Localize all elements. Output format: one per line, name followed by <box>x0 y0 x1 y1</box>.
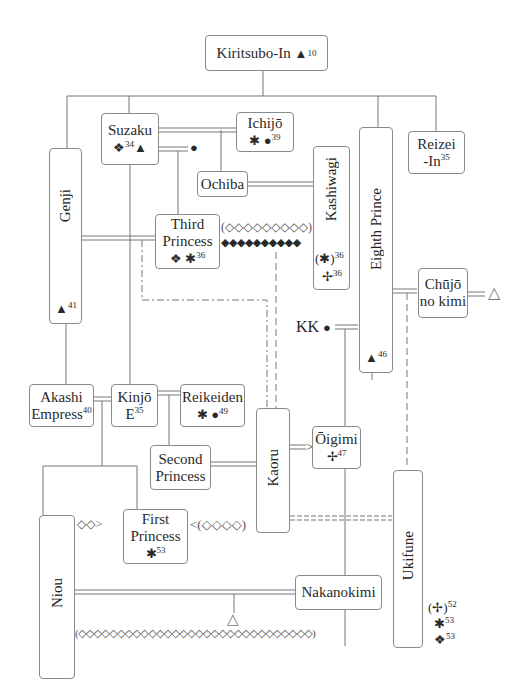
sup: 40 <box>83 405 92 415</box>
name: Ōigimi <box>315 431 358 448</box>
node-akashi-empress: Akashi Empress40 <box>29 384 94 427</box>
asterisk-icon: ✱ <box>185 251 196 266</box>
node-genji: Genji ▲41 <box>49 148 82 324</box>
asterisk-icon: ✱ <box>249 133 260 148</box>
longing-arrow-right: ◇◇> <box>77 517 102 532</box>
solid-diamond-row: ◆◆◆◆◆◆◆◆◆◆ <box>221 236 301 249</box>
sup: 52 <box>448 599 457 609</box>
line1: Akashi <box>40 389 83 406</box>
sup: 53 <box>157 545 166 555</box>
node-eighth-prince: Eighth Prince ▲46 <box>359 127 393 373</box>
name: Ochiba <box>201 176 244 193</box>
sup: 35 <box>441 152 450 162</box>
node-reizei: Reizei -In35 <box>408 131 465 174</box>
line1: First <box>142 511 170 528</box>
asterisk-icon: ✱ <box>146 546 157 561</box>
name: Suzaku <box>108 122 152 139</box>
open-triangle-icon: △ <box>227 610 239 628</box>
name: Ukifune <box>400 531 417 580</box>
triangle-icon: ▲ <box>134 140 147 155</box>
node-suzaku: Suzaku ❖34▲ <box>101 113 159 165</box>
sup: 41 <box>68 300 77 310</box>
name: Reikeiden <box>182 389 243 406</box>
sup: 34 <box>125 139 134 149</box>
line1: Second <box>158 451 202 468</box>
ukifune-symbols: (✢)52 ✱53 ❖53 <box>428 600 457 648</box>
triangle-icon: ▲ <box>55 301 68 316</box>
node-first-princess: First Princess ✱53 <box>123 509 188 564</box>
longing-row-bottom: (◇◇◇◇◇◇◇◇◇◇◇◇◇◇◇◇◇◇◇◇◇◇◇◇◇◇◇◇◇◇) <box>75 627 315 640</box>
asterisk-icon: ✱ <box>434 616 445 631</box>
open-triangle-icon: △ <box>488 283 500 302</box>
node-oigimi: Ōigimi ✢47 <box>312 426 361 469</box>
sup: 53 <box>445 615 454 625</box>
line2: Empress <box>31 406 83 422</box>
line1: Chūjō <box>425 276 462 293</box>
line2: E <box>125 406 134 422</box>
sup: 36 <box>335 250 344 260</box>
cross-icon: (✢) <box>428 600 448 615</box>
asterisk-icon: ✱ <box>197 407 208 422</box>
sup: 36 <box>196 250 205 260</box>
node-kiritsubo: Kiritsubo-In ▲10 <box>205 35 328 71</box>
name: Kashiwagi <box>323 157 340 221</box>
sup: 53 <box>446 631 455 641</box>
cross-diamond-icon: ❖ <box>434 632 446 647</box>
cross-diamond-icon: ❖ <box>170 251 182 266</box>
name: Genji <box>57 189 74 222</box>
line1: Reizei <box>417 136 455 153</box>
sup: 39 <box>272 132 281 142</box>
cross-icon: ✢ <box>327 449 338 464</box>
name: Eighth Prince <box>368 188 385 270</box>
cross-diamond-icon: ❖ <box>113 140 125 155</box>
cross-icon: ✢ <box>322 269 333 284</box>
line2: Princess <box>156 468 206 485</box>
name: Kiritsubo-In <box>217 45 291 62</box>
sup: 49 <box>219 405 228 415</box>
line2: Princess <box>163 233 213 250</box>
node-ochiba: Ochiba <box>197 171 248 197</box>
node-nakanokimi: Nakanokimi <box>295 575 382 610</box>
name: KK <box>296 318 319 335</box>
circle-icon: ● <box>211 407 219 422</box>
sup: 35 <box>135 405 144 415</box>
sup: 46 <box>378 349 387 359</box>
node-reikeiden: Reikeiden ✱ ●49 <box>180 384 245 427</box>
line2: no kimi <box>420 293 466 310</box>
line1: Kinjō <box>117 389 151 406</box>
open-diamond-row: (◇◇◇◇◇◇◇◇◇) <box>221 220 312 235</box>
circle-icon: ● <box>190 140 198 156</box>
name: Kaoru <box>265 449 282 487</box>
triangle-icon: ▲ <box>295 45 308 62</box>
node-third-princess: Third Princess ❖ ✱36 <box>155 214 220 269</box>
node-niou: Niou <box>39 515 75 679</box>
sup: 36 <box>333 268 342 278</box>
triangle-icon: ▲ <box>365 350 378 365</box>
connector-lines <box>0 0 511 682</box>
node-ukifune: Ukifune <box>393 470 423 648</box>
node-kinjo: Kinjō E35 <box>111 384 158 427</box>
name: Niou <box>49 578 66 608</box>
circle-icon: ● <box>323 320 331 335</box>
sup: 47 <box>338 447 347 457</box>
name: Ichijō <box>248 115 283 132</box>
node-kashiwagi: Kashiwagi (✱)36 ✢36 <box>313 146 350 290</box>
node-second-princess: Second Princess <box>150 445 211 490</box>
node-ichijo: Ichijō ✱ ●39 <box>236 112 294 152</box>
node-chujo-no-kimi: Chūjō no kimi <box>418 268 468 318</box>
line1: Third <box>171 216 204 233</box>
asterisk-icon: (✱) <box>315 251 335 266</box>
circle-icon: ● <box>264 133 272 148</box>
name: Nakanokimi <box>301 584 375 601</box>
node-kaoru: Kaoru <box>256 408 290 533</box>
longing-arrow-left: <(◇◇◇◇) <box>190 517 246 533</box>
line2: -In <box>423 153 441 169</box>
line2: Princess <box>131 528 181 545</box>
node-kk: KK ● <box>296 318 331 336</box>
